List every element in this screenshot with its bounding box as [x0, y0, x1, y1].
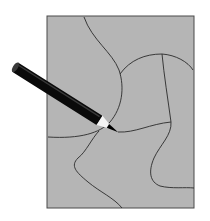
map-sheet — [47, 16, 194, 208]
map-drawing-illustration — [0, 0, 210, 221]
illustration-canvas — [0, 0, 210, 221]
